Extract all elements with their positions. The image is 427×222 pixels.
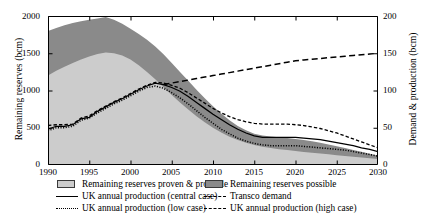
legend-item-high-case: UK annual production (high case)	[204, 202, 427, 214]
legend-item-transco-demand: Transco demand	[204, 190, 427, 202]
plot-area	[48, 16, 378, 165]
line-dashed-long-icon	[204, 191, 226, 202]
legend-item-possible: Remaining reserves possible	[204, 178, 427, 190]
x-tick-2025: 2025	[317, 167, 357, 177]
legend-label-transco-demand: Transco demand	[230, 190, 291, 202]
line-solid-icon	[56, 191, 78, 202]
legend-label-possible: Remaining reserves possible	[230, 178, 336, 190]
y-tick-right-200: 200	[383, 11, 417, 21]
y-tick-right-50: 50	[383, 122, 417, 132]
y-tick-left-2000: 2000	[6, 11, 40, 21]
y-tick-right-100: 100	[383, 85, 417, 95]
y-tick-left-500: 500	[6, 122, 40, 132]
x-tick-1995: 1995	[69, 167, 109, 177]
legend-label-high-case: UK annual production (high case)	[230, 202, 357, 214]
swatch-dark-icon	[204, 179, 226, 190]
x-tick-2015: 2015	[234, 167, 274, 177]
x-tick-2020: 2020	[275, 167, 315, 177]
x-tick-2005: 2005	[151, 167, 191, 177]
x-tick-1990: 1990	[28, 167, 68, 177]
y-tick-left-1500: 1500	[6, 48, 40, 58]
x-tick-2030: 2030	[358, 167, 398, 177]
chart-figure: Remaining reserves (bcm) Demand & produc…	[0, 0, 427, 222]
legend-column-right: Remaining reserves possible Transco dema…	[204, 178, 427, 215]
line-dashed-short-icon	[204, 203, 226, 214]
legend-label-low-case: UK annual production (low case)	[82, 202, 206, 214]
y-tick-right-150: 150	[383, 48, 417, 58]
x-tick-2010: 2010	[193, 167, 233, 177]
chart-canvas	[48, 16, 378, 165]
x-tick-2000: 2000	[110, 167, 150, 177]
legend-label-central-case: UK annual production (central case)	[82, 190, 217, 202]
line-dotted-icon	[56, 203, 78, 214]
y-tick-left-1000: 1000	[6, 85, 40, 95]
swatch-light-icon	[56, 179, 78, 190]
